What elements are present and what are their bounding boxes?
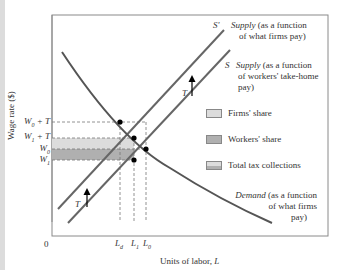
legend-total-tax: Total tax collections <box>206 160 301 170</box>
ytick-w1-plus-t: W1 + T <box>10 131 50 143</box>
tax-label-upper: T <box>182 88 187 98</box>
point-l0-w0 <box>143 146 148 151</box>
legend-swatch-workers <box>206 135 222 144</box>
xtick-l0: L0 <box>143 238 151 250</box>
s-prime-description: Supply (as a function of what firms pay) <box>231 20 307 42</box>
point-ld-w0t <box>117 119 122 124</box>
tax-label-lower: T <box>75 199 80 209</box>
x-axis-label: Units of labor, L <box>160 256 219 266</box>
workers-share-area <box>52 149 134 160</box>
supply-s-prime-line <box>58 30 224 209</box>
s-prime-label: S' <box>213 20 219 31</box>
legend-firms-share: Firms' share <box>206 108 272 118</box>
point-l1-w1t <box>131 135 136 140</box>
point-l1-w1 <box>131 157 136 162</box>
xtick-l1: L1 <box>131 238 139 250</box>
s-label: S <box>225 60 230 71</box>
ytick-w1: W1 <box>10 154 50 166</box>
ytick-w0-plus-t: W0 + T <box>10 116 50 128</box>
legend-workers-share: Workers' share <box>206 134 281 144</box>
origin-label: 0 <box>44 239 49 249</box>
xtick-ld: Ld <box>115 238 123 250</box>
demand-description: Demand (as a function of what firms pay) <box>233 190 317 223</box>
legend-swatch-total <box>206 161 222 170</box>
legend-swatch-firms <box>206 109 222 118</box>
s-description: Supply (as a function of workers' take-h… <box>236 60 319 93</box>
